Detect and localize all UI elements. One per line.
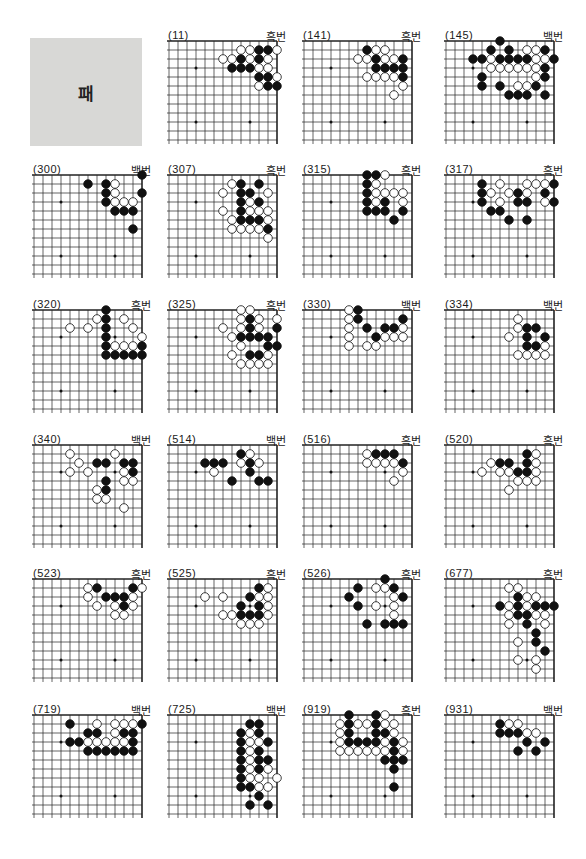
- black-stone: [246, 64, 255, 73]
- black-stone: [255, 216, 264, 225]
- black-stone: [210, 459, 219, 468]
- problem-number: (719): [33, 703, 61, 715]
- white-stone: [336, 720, 345, 729]
- white-stone: [246, 198, 255, 207]
- white-stone: [345, 315, 354, 324]
- white-stone: [372, 459, 381, 468]
- black-stone: [255, 46, 264, 55]
- black-stone: [93, 729, 102, 738]
- white-stone: [138, 584, 147, 593]
- problem-number: (340): [33, 433, 61, 445]
- black-stone: [237, 450, 246, 459]
- problem-diagram: (523)흑번: [33, 567, 157, 697]
- black-stone: [102, 306, 111, 315]
- problem-diagram: (719)백번: [33, 703, 157, 833]
- black-stone: [255, 55, 264, 64]
- black-stone: [264, 46, 273, 55]
- black-stone: [514, 593, 523, 602]
- black-stone: [363, 171, 372, 180]
- star-point: [526, 390, 529, 393]
- black-stone: [496, 37, 505, 46]
- white-stone: [246, 620, 255, 629]
- white-stone: [246, 774, 255, 783]
- black-stone: [255, 747, 264, 756]
- black-stone: [514, 198, 523, 207]
- white-stone: [514, 64, 523, 73]
- white-stone: [93, 495, 102, 504]
- black-stone: [363, 738, 372, 747]
- black-stone: [505, 729, 514, 738]
- white-stone: [84, 584, 93, 593]
- black-stone: [399, 620, 408, 629]
- black-stone: [354, 306, 363, 315]
- black-stone: [514, 55, 523, 64]
- black-stone: [514, 468, 523, 477]
- black-stone: [129, 459, 138, 468]
- go-board: [303, 579, 415, 684]
- black-stone: [246, 324, 255, 333]
- white-stone: [381, 720, 390, 729]
- black-stone: [523, 333, 532, 342]
- black-stone: [541, 91, 550, 100]
- black-stone: [496, 82, 505, 91]
- white-stone: [93, 486, 102, 495]
- go-board: [303, 445, 415, 550]
- star-point: [249, 255, 252, 258]
- black-stone: [363, 189, 372, 198]
- black-stone: [273, 342, 282, 351]
- black-stone: [514, 747, 523, 756]
- black-stone: [129, 207, 138, 216]
- white-stone: [84, 324, 93, 333]
- black-stone: [84, 180, 93, 189]
- black-stone: [255, 765, 264, 774]
- go-board: [303, 310, 415, 415]
- white-stone: [228, 351, 237, 360]
- black-stone: [399, 73, 408, 82]
- black-stone: [66, 720, 75, 729]
- black-stone: [390, 783, 399, 792]
- problem-number: (320): [33, 298, 61, 310]
- white-stone: [505, 611, 514, 620]
- white-stone: [514, 324, 523, 333]
- white-stone: [264, 765, 273, 774]
- problem-diagram: (307)흑번: [168, 163, 292, 293]
- black-stone: [255, 611, 264, 620]
- star-point: [60, 741, 63, 744]
- black-stone: [532, 342, 541, 351]
- white-stone: [372, 180, 381, 189]
- go-board: [445, 715, 557, 820]
- star-point: [114, 390, 117, 393]
- white-stone: [255, 324, 264, 333]
- white-stone: [390, 189, 399, 198]
- black-stone: [246, 216, 255, 225]
- black-stone: [93, 459, 102, 468]
- black-stone: [354, 602, 363, 611]
- white-stone: [399, 333, 408, 342]
- black-stone: [120, 351, 129, 360]
- white-stone: [514, 477, 523, 486]
- black-stone: [255, 792, 264, 801]
- star-point: [249, 605, 252, 608]
- white-stone: [111, 720, 120, 729]
- white-stone: [505, 64, 514, 73]
- black-stone: [138, 189, 147, 198]
- problem-number: (145): [445, 29, 473, 41]
- white-stone: [496, 180, 505, 189]
- black-stone: [381, 64, 390, 73]
- star-point: [472, 605, 475, 608]
- white-stone: [111, 738, 120, 747]
- black-stone: [102, 315, 111, 324]
- star-point: [249, 121, 252, 124]
- black-stone: [381, 207, 390, 216]
- white-stone: [264, 584, 273, 593]
- black-stone: [237, 611, 246, 620]
- white-stone: [523, 477, 532, 486]
- white-stone: [228, 180, 237, 189]
- white-stone: [514, 584, 523, 593]
- black-stone: [237, 333, 246, 342]
- black-stone: [505, 46, 514, 55]
- black-stone: [237, 765, 246, 774]
- white-stone: [505, 720, 514, 729]
- black-stone: [237, 55, 246, 64]
- black-stone: [541, 64, 550, 73]
